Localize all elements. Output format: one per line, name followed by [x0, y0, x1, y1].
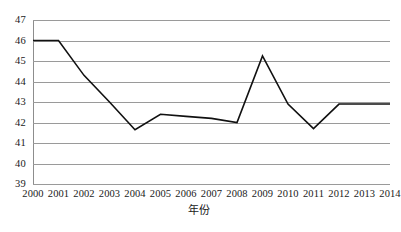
x-tick-label: 2012	[328, 188, 349, 201]
x-tick-label: 2002	[73, 188, 94, 201]
x-tick-label: 2000	[22, 188, 43, 201]
y-tick-label: 45	[15, 56, 26, 67]
x-tick-label: 2011	[303, 188, 324, 201]
plot-area	[33, 20, 390, 184]
x-tick-label: 2008	[226, 188, 247, 201]
x-axis-title: 年份	[0, 204, 397, 217]
x-tick-label: 2003	[99, 188, 120, 201]
x-tick-label: 2005	[150, 188, 171, 201]
y-tick-label: 44	[15, 76, 26, 87]
y-tick-label: 42	[15, 117, 26, 128]
x-tick-label: 2004	[124, 188, 145, 201]
x-tick-label: 2006	[175, 188, 196, 201]
y-tick-label: 43	[15, 97, 26, 108]
data-series-line	[33, 41, 390, 130]
x-tick-label: 2013	[354, 188, 375, 201]
x-tick-label: 2001	[48, 188, 69, 201]
data-series-svg	[33, 20, 390, 184]
x-tick-label: 2010	[277, 188, 298, 201]
x-tick-label: 2009	[252, 188, 273, 201]
x-tick-label: 2007	[201, 188, 222, 201]
y-tick-label: 47	[15, 15, 26, 26]
x-axis-tick-labels: 2000200120022003200420052006200720082009…	[33, 188, 390, 204]
y-tick-label: 40	[15, 158, 26, 169]
x-tick-label: 2014	[379, 188, 400, 201]
y-tick-label: 46	[15, 35, 26, 46]
y-tick-label: 41	[15, 138, 26, 149]
x-axis-line	[33, 184, 390, 185]
y-axis-tick-labels: 474645444342414039	[0, 20, 30, 184]
